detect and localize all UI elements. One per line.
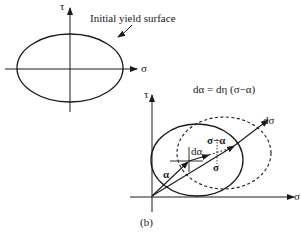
sigma-label-a: σ xyxy=(141,62,147,74)
callout-arrow xyxy=(118,25,132,37)
panel-b: dα = dη (σ−α) τ σ α dα σ−α σ dσ (b) xyxy=(130,83,300,229)
alpha-label: α xyxy=(163,168,170,180)
dalpha-label: dα xyxy=(191,145,203,157)
sigma-minus-alpha-label: σ−α xyxy=(207,134,226,146)
kinematic-hardening-diagram: τ σ Initial yield surface dα = dη (σ−α) … xyxy=(0,0,301,238)
sigma-vector-label: σ xyxy=(213,161,219,173)
panel-a: τ σ Initial yield surface xyxy=(5,0,176,112)
sigma-label-b: σ xyxy=(294,190,300,202)
tau-label-b: τ xyxy=(144,88,149,100)
dsigma-label: dσ xyxy=(263,114,275,126)
equation: dα = dη (σ−α) xyxy=(193,83,256,96)
yield-surface-callout: Initial yield surface xyxy=(90,12,176,24)
current-yield-surface xyxy=(151,124,243,196)
panel-b-caption: (b) xyxy=(140,216,153,229)
tau-label-a: τ xyxy=(60,0,65,12)
